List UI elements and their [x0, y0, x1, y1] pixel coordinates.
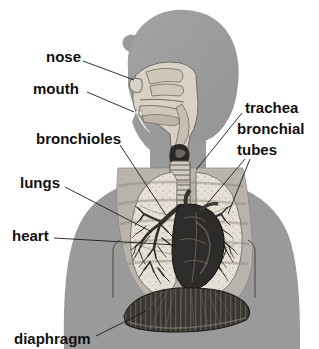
- diagram-canvas: nosemouthbronchioleslungsheartdiaphragmt…: [0, 0, 319, 349]
- label-diaphragm: diaphragm: [14, 330, 91, 347]
- leader-line-nose: [83, 61, 134, 80]
- label-bronchial: bronchial: [237, 120, 305, 137]
- nose-structure: [129, 78, 142, 93]
- label-nose: nose: [46, 48, 81, 65]
- label-lungs: lungs: [20, 174, 60, 191]
- label-mouth: mouth: [33, 80, 79, 97]
- label-trachea: trachea: [245, 99, 299, 116]
- label-heart: heart: [12, 227, 49, 244]
- nasal-turbinate-lower: [150, 84, 184, 96]
- respiratory-system-diagram: nosemouthbronchioleslungsheartdiaphragmt…: [0, 0, 319, 349]
- nasal-turbinate-upper: [146, 68, 183, 84]
- label-tubes: tubes: [237, 141, 277, 158]
- leader-line-mouth: [87, 92, 134, 112]
- label-bronchioles: bronchioles: [36, 130, 121, 147]
